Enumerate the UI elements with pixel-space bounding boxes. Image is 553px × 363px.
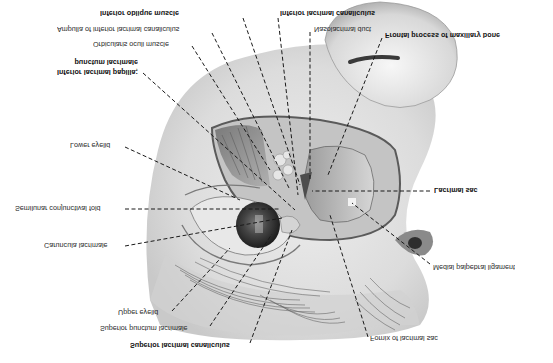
label-fornix-lacrimal-sac: Fornix of lacrimal sac <box>370 334 438 343</box>
label-superior-lacrimal-canaliculus: Superior lacrimal canaliculus <box>130 341 230 350</box>
label-inferior-lacrimal-papilla: Inferior lacrimal papilla; <box>38 68 138 77</box>
label-medial-palpebral-ligament: Medial palpebral ligament <box>433 263 515 272</box>
label-lacrimal-sac: Lacrimal sac <box>434 186 478 195</box>
label-punctum-lacrimale-inferior: punctum lacrimale <box>38 58 138 67</box>
label-lower-eyelid: Lower eyelid <box>70 141 110 150</box>
label-inferior-lacrimal-canaliculus: Inferior lacrimal canaliculus <box>280 9 375 18</box>
label-upper-eyelid: Upper eyelid <box>118 308 158 317</box>
label-superior-punctum: Superior punctum lacrimale <box>100 324 188 333</box>
label-orbicularis-oculi: Orbicularis oculi muscle <box>93 40 169 49</box>
anatomy-figure: Inferior oblique muscle Ampulla of infer… <box>0 0 553 363</box>
label-frontal-process-maxillary: Frontal process of maxillary bone <box>385 31 500 40</box>
label-semilunar-fold: Semilunar conjunctival fold <box>15 204 101 213</box>
label-caruncula-lacrimale: Caruncula lacrimale <box>44 241 108 250</box>
label-nasolacrimal-duct: Nasolacrimal duct <box>314 25 371 34</box>
label-inferior-oblique-muscle: Inferior oblique muscle <box>100 9 179 18</box>
illustration <box>0 0 553 363</box>
label-ampulla-inferior-canaliculus: Ampulla of inferior lacrimal canaliculus <box>57 25 179 34</box>
